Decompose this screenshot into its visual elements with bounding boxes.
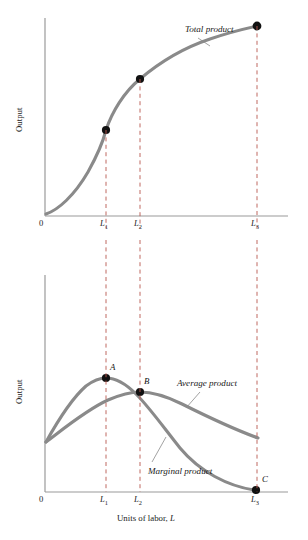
chart-vector-layer (0, 0, 308, 540)
x-axis-title-text: Units of labor, (117, 513, 170, 523)
average-product-leader-line (186, 392, 200, 408)
x-tick-l1-bottom-sub: 1 (105, 499, 108, 506)
curve-label-average-product: Average product (177, 378, 237, 388)
bottom-panel-markers (102, 374, 260, 494)
y-axis-title-bottom: Output (14, 380, 24, 404)
x-axis-title-bottom: Units of labor, L (117, 513, 175, 523)
x-tick-l3-top-sub: 3 (256, 223, 259, 230)
average-product-curve (46, 392, 258, 442)
x-tick-l1-top: L1 (100, 218, 108, 230)
figure-production-functions: Output Total product 0 L1 L2 L3 Output A… (0, 0, 308, 540)
point-label-b: B (144, 376, 149, 386)
x-tick-l2-bottom: L2 (134, 494, 142, 506)
x-tick-l2-bottom-sub: 2 (139, 499, 142, 506)
marker-point-c (252, 486, 260, 494)
x-tick-origin-top: 0 (39, 218, 43, 228)
top-panel-markers (102, 22, 262, 135)
total-product-curve (46, 26, 257, 214)
x-tick-l1-bottom: L1 (100, 494, 108, 506)
x-tick-l2-top: L2 (134, 218, 142, 230)
bottom-panel-axes (45, 275, 288, 492)
x-axis-title-variable: L (170, 513, 175, 523)
point-label-c: C (262, 474, 268, 484)
curve-label-total-product: Total product (185, 24, 234, 34)
x-tick-l1-top-sub: 1 (105, 223, 108, 230)
marginal-product-leader-line (152, 437, 166, 462)
x-tick-l2-top-sub: 2 (139, 223, 142, 230)
top-panel-axes (45, 18, 288, 216)
point-label-a: A (110, 362, 115, 372)
curve-label-marginal-product: Marginal product (148, 466, 212, 476)
x-tick-l3-bottom: L3 (251, 494, 259, 506)
x-tick-origin-bottom: 0 (39, 494, 43, 504)
x-tick-l3-bottom-sub: 3 (256, 499, 259, 506)
y-axis-title-top: Output (14, 108, 24, 132)
x-tick-l3-top: L3 (251, 218, 259, 230)
